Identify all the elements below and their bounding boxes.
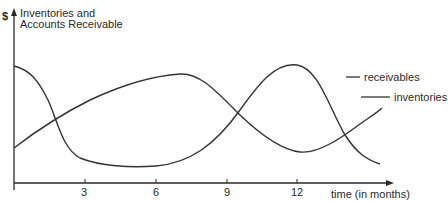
y-axis-title-line2: Accounts Receivable xyxy=(20,18,123,30)
y-axis-arrow-icon xyxy=(11,8,17,16)
x-tick-label-3: 3 xyxy=(81,186,87,198)
x-axis-title: time (in months) xyxy=(331,188,410,200)
x-tick-label-9: 9 xyxy=(224,186,230,198)
y-axis-unit: $ xyxy=(2,10,8,22)
receivables-line xyxy=(14,65,380,167)
inventories-line xyxy=(14,74,382,152)
legend-receivables: receivables xyxy=(364,71,420,83)
x-tick-label-12: 12 xyxy=(291,186,303,198)
x-axis-arrow-icon xyxy=(386,180,394,186)
x-tick-label-6: 6 xyxy=(153,186,159,198)
line-chart xyxy=(0,0,448,202)
legend-inventories: inventories xyxy=(394,91,447,103)
